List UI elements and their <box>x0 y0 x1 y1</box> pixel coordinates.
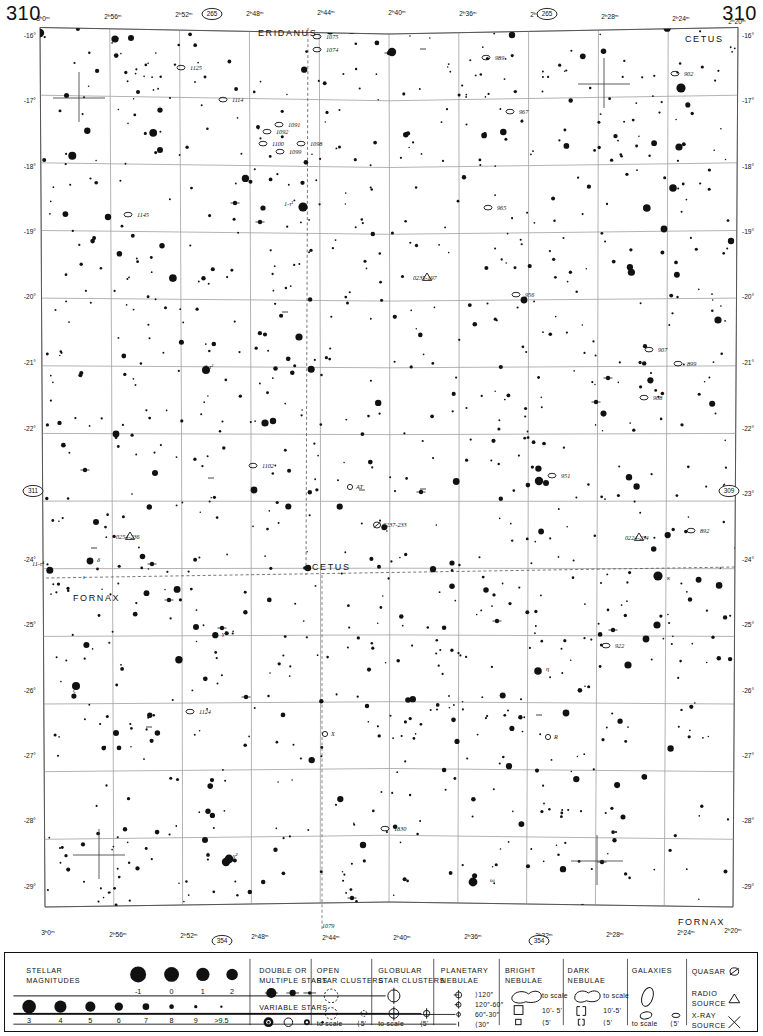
star-marker <box>363 859 366 862</box>
star-marker <box>298 263 300 265</box>
reference-crosshair <box>578 58 630 108</box>
star-marker <box>50 201 52 203</box>
star-marker <box>289 675 291 677</box>
neighbor-page-marker[interactable]: 265 <box>537 8 557 19</box>
magnitude-dot <box>22 1000 36 1014</box>
sky-map[interactable]: 1125107510749899021114967109110921100109… <box>0 0 763 945</box>
star-marker <box>182 502 184 504</box>
star-marker <box>148 417 151 420</box>
ra-label-bottom: 2ʰ20ᵐ <box>724 927 742 934</box>
star-marker <box>706 662 708 664</box>
star-marker <box>78 244 80 246</box>
star-marker <box>520 239 522 241</box>
star-marker <box>540 594 542 596</box>
star-marker <box>224 810 226 812</box>
star-marker <box>155 298 157 300</box>
star-marker <box>493 788 495 790</box>
star-marker <box>393 894 395 896</box>
star-marker <box>375 41 380 46</box>
star-marker <box>127 842 129 844</box>
neighbor-page-marker[interactable]: 354 <box>212 935 232 945</box>
star-marker <box>422 440 424 442</box>
star-marker <box>701 65 704 68</box>
star-marker <box>672 635 674 637</box>
star-marker <box>243 610 247 614</box>
star-marker <box>159 131 161 133</box>
neighbor-page-marker[interactable]: 311 <box>23 485 43 496</box>
star-marker <box>183 901 185 903</box>
star-marker <box>605 812 607 814</box>
object-label-text: 1091 <box>288 121 300 128</box>
star-marker <box>60 681 62 683</box>
star-marker <box>668 324 670 326</box>
star-marker <box>269 178 273 182</box>
star-marker <box>542 331 544 333</box>
star-marker <box>497 427 500 430</box>
neighbor-page-marker[interactable]: 354 <box>529 935 549 945</box>
star-marker <box>639 512 641 514</box>
star-marker <box>62 517 64 519</box>
star-marker <box>155 830 160 835</box>
star-marker <box>628 571 631 574</box>
star-marker <box>477 734 479 736</box>
star-marker <box>613 134 617 138</box>
star-marker <box>169 97 171 99</box>
legend-caption: ⟨5' <box>603 1019 612 1026</box>
star-marker <box>151 858 153 860</box>
star-marker <box>124 71 127 74</box>
star-marker <box>100 267 103 270</box>
star-marker <box>653 75 655 77</box>
star-marker <box>625 173 628 176</box>
star-marker <box>563 710 570 717</box>
star-marker <box>276 741 279 744</box>
star-marker <box>329 347 331 349</box>
star-marker <box>651 546 656 551</box>
star-marker <box>535 465 541 471</box>
star-marker <box>553 932 557 936</box>
star-marker <box>451 717 456 722</box>
star-marker <box>680 709 682 711</box>
star-marker <box>709 401 715 407</box>
star-marker <box>665 532 671 538</box>
star-marker <box>580 810 582 812</box>
neighbor-page-marker[interactable]: 309 <box>719 485 739 496</box>
star-marker <box>485 717 487 719</box>
star-marker <box>479 164 481 166</box>
star-marker <box>147 62 149 64</box>
star-marker <box>466 757 468 759</box>
star-marker <box>676 296 678 298</box>
star-marker <box>109 891 111 893</box>
star-marker <box>436 708 438 710</box>
star-marker <box>535 477 543 485</box>
star-marker <box>222 769 224 771</box>
star-marker <box>273 366 278 371</box>
star-marker <box>85 290 87 292</box>
star-marker <box>708 168 711 171</box>
object-label-text: 1092 <box>276 128 288 135</box>
planetary-nebula-size-label: ⟨30″ <box>475 1021 489 1028</box>
star-marker <box>98 614 101 617</box>
object-label-text: 1102 <box>262 462 274 469</box>
star-marker <box>650 372 652 374</box>
object-label-text: γ² <box>233 852 239 859</box>
star-marker <box>147 713 152 718</box>
dec-label-left: -28° <box>24 817 37 824</box>
legend-bright-nebulae: BRIGHTNEBULAEto scale10'- 5'⟨5' <box>505 966 568 1027</box>
star-marker <box>570 660 572 662</box>
star-marker <box>131 234 135 238</box>
star-marker <box>626 600 628 602</box>
star-marker <box>157 147 163 153</box>
star-marker <box>117 38 119 40</box>
constellation-name: CETUS <box>312 562 351 572</box>
neighbor-page-marker[interactable]: 265 <box>202 8 222 19</box>
star-marker <box>380 791 382 793</box>
star-marker <box>286 356 291 361</box>
star-marker <box>254 707 256 709</box>
star-marker <box>298 202 307 211</box>
star-marker <box>726 248 728 250</box>
ra-label-bottom: 2ʰ52ᵐ <box>180 932 198 939</box>
star-marker <box>206 128 209 131</box>
star-marker <box>409 242 411 244</box>
star-marker <box>61 846 64 849</box>
star-marker <box>699 182 701 184</box>
